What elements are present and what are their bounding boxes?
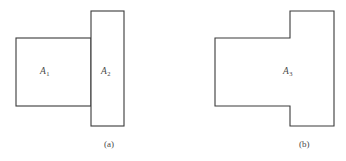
figure-container: A1 A2 A3 (a) (b) bbox=[0, 0, 346, 161]
area-label-a3: A3 bbox=[283, 67, 292, 77]
area-label-a2: A2 bbox=[101, 67, 110, 77]
panel-caption-b: (b) bbox=[299, 140, 310, 149]
area-label-a1-subscript: 1 bbox=[46, 70, 49, 77]
geometry-figure bbox=[0, 0, 346, 161]
area-label-a1: A1 bbox=[40, 67, 49, 77]
area-label-a2-subscript: 2 bbox=[107, 70, 110, 77]
panel-caption-a: (a) bbox=[104, 140, 114, 149]
rectangle-a1 bbox=[16, 38, 91, 106]
area-label-a3-subscript: 3 bbox=[289, 70, 292, 77]
polygon-a3 bbox=[215, 11, 334, 126]
